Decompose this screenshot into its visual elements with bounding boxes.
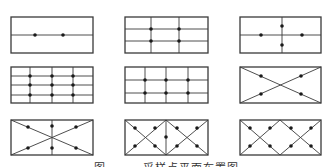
sampling-point-icon [149, 27, 153, 31]
layout-panel-4 [11, 67, 93, 103]
sampling-point-icon [268, 126, 272, 130]
sampling-point-icon [309, 144, 313, 148]
sampling-point-icon [143, 91, 147, 95]
layout-panel-6 [240, 67, 321, 103]
layout-panel-8 [125, 120, 208, 155]
panel-grid [11, 17, 321, 155]
sampling-point-icon [50, 74, 54, 78]
sampling-point-icon [71, 93, 75, 97]
sampling-point-icon [300, 33, 304, 37]
sampling-point-icon [26, 146, 30, 150]
sampling-point-icon [28, 74, 32, 78]
sampling-point-icon [133, 126, 137, 130]
sampling-point-icon [248, 126, 252, 130]
sampling-point-icon [175, 126, 179, 130]
sampling-point-icon [164, 78, 168, 82]
sampling-point-icon [195, 144, 199, 148]
sampling-point-icon [164, 91, 168, 95]
sampling-point-icon [50, 124, 54, 128]
layout-panel-3 [240, 17, 321, 53]
sampling-point-icon [289, 144, 293, 148]
sampling-point-icon [289, 126, 293, 130]
layout-panel-2 [125, 17, 208, 53]
panel-border [240, 120, 321, 155]
sampling-point-icon [133, 144, 137, 148]
sampling-point-icon [259, 74, 263, 78]
sampling-point-icon [259, 33, 263, 37]
sampling-point-icon [28, 93, 32, 97]
figure-caption: 图 — — 采样点平面布置图 [0, 159, 333, 167]
sampling-point-icon [186, 78, 190, 82]
sampling-layout-diagram [0, 0, 333, 167]
sampling-point-icon [177, 39, 181, 43]
sampling-point-icon [268, 144, 272, 148]
sampling-point-icon [153, 144, 157, 148]
sampling-point-icon [259, 92, 263, 96]
panel-border [125, 67, 208, 103]
sampling-point-icon [50, 93, 54, 97]
layout-panel-7 [11, 120, 93, 155]
layout-panel-5 [125, 67, 208, 103]
sampling-point-icon [50, 146, 54, 150]
sampling-point-icon [149, 39, 153, 43]
sampling-point-icon [26, 125, 30, 129]
sampling-point-icon [50, 83, 54, 87]
layout-panel-1 [11, 17, 93, 53]
sampling-point-icon [71, 74, 75, 78]
sampling-point-icon [33, 33, 37, 37]
sampling-point-icon [299, 92, 303, 96]
sampling-point-icon [248, 144, 252, 148]
sampling-point-icon [299, 74, 303, 78]
sampling-point-icon [309, 126, 313, 130]
sampling-point-icon [74, 146, 78, 150]
sampling-point-icon [143, 78, 147, 82]
sampling-point-icon [280, 24, 284, 28]
sampling-point-icon [153, 126, 157, 130]
sampling-point-icon [61, 33, 65, 37]
sampling-point-icon [280, 43, 284, 47]
layout-panel-9 [240, 120, 321, 155]
sampling-point-icon [195, 126, 199, 130]
sampling-point-icon [71, 83, 75, 87]
sampling-point-icon [186, 91, 190, 95]
sampling-point-icon [177, 27, 181, 31]
sampling-point-icon [74, 125, 78, 129]
sampling-point-icon [28, 83, 32, 87]
panel-border [125, 17, 208, 53]
sampling-point-icon [164, 135, 168, 139]
sampling-point-icon [175, 144, 179, 148]
